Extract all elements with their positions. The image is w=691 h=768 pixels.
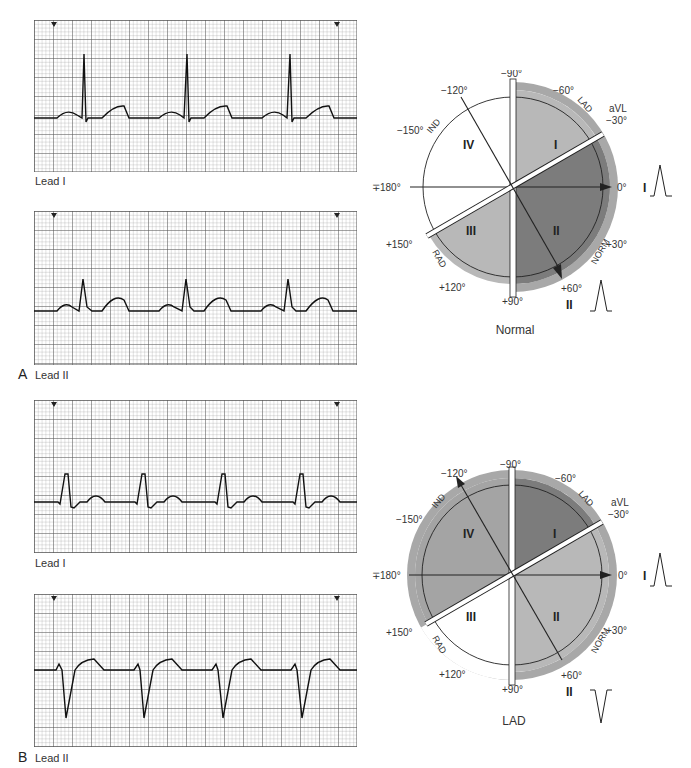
svg-text:II: II: [553, 610, 560, 624]
ecg-grid: [34, 211, 357, 365]
lead-label: Lead I: [35, 557, 66, 569]
positive-deflection-icon: [650, 553, 672, 586]
svg-text:−30°: −30°: [606, 115, 627, 126]
svg-text:+150°: +150°: [386, 239, 413, 250]
svg-text:III: III: [466, 610, 476, 624]
svg-text:III: III: [466, 224, 476, 238]
svg-text:−90°: −90°: [501, 70, 522, 79]
axis-caption: Normal: [475, 323, 555, 337]
positive-deflection-icon: [650, 165, 672, 196]
svg-text:+150°: +150°: [386, 627, 413, 638]
svg-text:II: II: [553, 224, 560, 238]
svg-text:aVL: aVL: [609, 103, 627, 114]
ecg-strip-b-lead-i: [34, 400, 357, 553]
svg-text:II: II: [566, 298, 573, 312]
svg-text:∓180°: ∓180°: [372, 182, 401, 193]
ecg-grid: [34, 594, 357, 747]
ecg-grid: [34, 20, 357, 172]
svg-text:I: I: [554, 138, 557, 152]
svg-text:+90°: +90°: [502, 296, 523, 307]
lead-label: Lead II: [35, 369, 69, 381]
svg-text:∓180°: ∓180°: [372, 570, 401, 581]
svg-text:+60°: +60°: [561, 670, 582, 681]
svg-text:IV: IV: [463, 527, 474, 541]
svg-text:−120°: −120°: [441, 85, 468, 96]
svg-text:−90°: −90°: [500, 459, 521, 470]
axis-caption: LAD: [474, 714, 554, 728]
svg-text:0°: 0°: [618, 570, 628, 581]
svg-text:I: I: [643, 569, 646, 583]
lead-label: Lead II: [35, 752, 69, 764]
panel-letter: B: [18, 749, 27, 765]
svg-text:+90°: +90°: [502, 684, 523, 695]
svg-text:IV: IV: [463, 138, 474, 152]
svg-text:−30°: −30°: [608, 509, 629, 520]
positive-deflection-icon: [590, 280, 612, 311]
hexaxial-diagram-lad: −90° −60° aVL −30° 0° +30° +60° +90° +12…: [370, 455, 691, 739]
panel-letter: A: [18, 366, 27, 382]
svg-text:−60°: −60°: [553, 85, 574, 96]
ecg-strip-a-lead-ii: [34, 211, 357, 365]
ecg-strip-b-lead-ii: [34, 594, 357, 747]
svg-text:+120°: +120°: [439, 669, 466, 680]
svg-text:+120°: +120°: [439, 282, 466, 293]
ecg-strip-a-lead-i: [34, 20, 357, 172]
svg-text:II: II: [566, 685, 573, 699]
svg-text:+60°: +60°: [561, 283, 582, 294]
ecg-grid: [34, 400, 357, 553]
negative-deflection-icon: [590, 690, 612, 723]
svg-text:−120°: −120°: [441, 468, 468, 479]
svg-text:−60°: −60°: [555, 473, 576, 484]
svg-text:0°: 0°: [617, 182, 627, 193]
svg-text:I: I: [553, 527, 556, 541]
svg-text:aVL: aVL: [611, 497, 629, 508]
hexaxial-diagram-normal: −90° −60° aVL −30° 0° +30° +60° +90° +12…: [370, 70, 691, 354]
svg-text:−150°: −150°: [396, 514, 423, 525]
svg-text:I: I: [643, 181, 646, 195]
lead-label: Lead I: [35, 175, 66, 187]
svg-text:−150°: −150°: [397, 125, 424, 136]
